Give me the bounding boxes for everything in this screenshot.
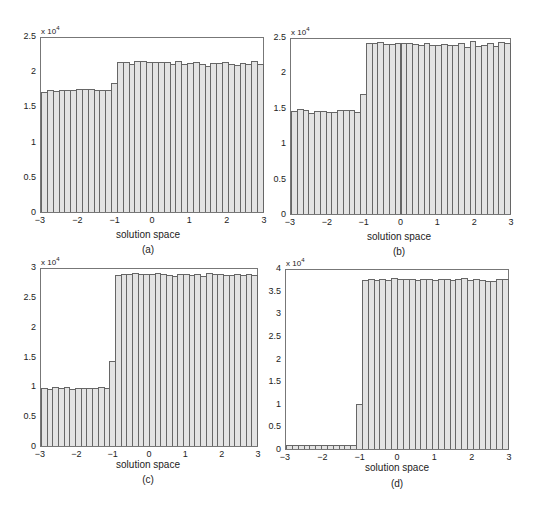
y-tick-label: 1 (259, 399, 281, 409)
y-tick-label: 2.5 (264, 32, 286, 42)
x-tick-label: 2 (212, 449, 232, 459)
histogram-bar (251, 275, 258, 446)
x-tick-label: −2 (312, 452, 332, 462)
y-tick-label: 1.5 (264, 103, 286, 113)
x-tick-label: 2 (464, 217, 484, 227)
x-tick-label: 0 (387, 452, 407, 462)
plot-area-a (40, 37, 264, 213)
panel-caption: (d) (382, 478, 412, 489)
x-tick-label: −2 (66, 449, 86, 459)
plot-area-c (40, 268, 258, 447)
y-tick-label: 2 (259, 354, 281, 364)
x-tick-label: 3 (499, 452, 519, 462)
x-tick-label: −2 (67, 215, 87, 225)
x-tick-label: 1 (424, 452, 444, 462)
y-tick-label: 0.5 (264, 174, 286, 184)
x-tick-label: −3 (30, 449, 50, 459)
x-tick-label: 3 (501, 217, 521, 227)
y-tick-label: 1.5 (14, 352, 36, 362)
x-axis-label: solution space (339, 231, 459, 242)
x-tick-label: 0 (142, 215, 162, 225)
y-tick-label: 3 (259, 308, 281, 318)
histogram-bar (504, 43, 511, 215)
x-tick-label: 2 (462, 452, 482, 462)
x-tick-label: 0 (391, 217, 411, 227)
x-tick-label: −1 (103, 449, 123, 459)
y-tick-label: 1 (14, 137, 36, 147)
histogram-bar (257, 64, 264, 212)
x-axis-label: solution space (88, 229, 208, 240)
x-tick-label: 1 (179, 215, 199, 225)
y-tick-label: 0.5 (14, 411, 36, 421)
x-tick-label: −3 (30, 215, 50, 225)
x-axis-label: solution space (337, 462, 457, 473)
y-tick-label: 3.5 (259, 286, 281, 296)
y-tick-label: 2 (264, 67, 286, 77)
y-tick-label: 1 (14, 381, 36, 391)
y-tick-label: 2.5 (14, 292, 36, 302)
x-tick-label: −1 (105, 215, 125, 225)
x-tick-label: 0 (139, 449, 159, 459)
y-tick-label: 2 (14, 322, 36, 332)
x-tick-label: 2 (217, 215, 237, 225)
plot-area-d (285, 269, 509, 450)
y-axis-multiplier: x 104 (41, 25, 59, 36)
x-tick-label: 1 (175, 449, 195, 459)
y-tick-label: 2.5 (259, 331, 281, 341)
panel-caption: (b) (384, 246, 414, 257)
x-tick-label: −3 (280, 217, 300, 227)
y-tick-label: 1.5 (14, 101, 36, 111)
y-tick-label: 2.5 (14, 31, 36, 41)
y-tick-label: 3 (14, 262, 36, 272)
x-axis-label: solution space (88, 459, 208, 470)
panel-caption: (c) (133, 474, 163, 485)
x-tick-label: −1 (350, 452, 370, 462)
histogram-bar (502, 279, 509, 449)
y-axis-multiplier: x 104 (286, 257, 304, 268)
x-tick-label: −1 (354, 217, 374, 227)
y-axis-multiplier: x 104 (41, 256, 59, 267)
y-tick-label: 0.5 (14, 172, 36, 182)
y-tick-label: 2 (14, 66, 36, 76)
y-tick-label: 1 (264, 138, 286, 148)
x-tick-label: −3 (275, 452, 295, 462)
y-tick-label: 1.5 (259, 376, 281, 386)
x-tick-label: 1 (427, 217, 447, 227)
plot-area-b (290, 38, 511, 215)
x-tick-label: −2 (317, 217, 337, 227)
y-tick-label: 0.5 (259, 421, 281, 431)
panel-caption: (a) (133, 244, 163, 255)
y-axis-multiplier: x 104 (291, 26, 309, 37)
y-tick-label: 4 (259, 263, 281, 273)
